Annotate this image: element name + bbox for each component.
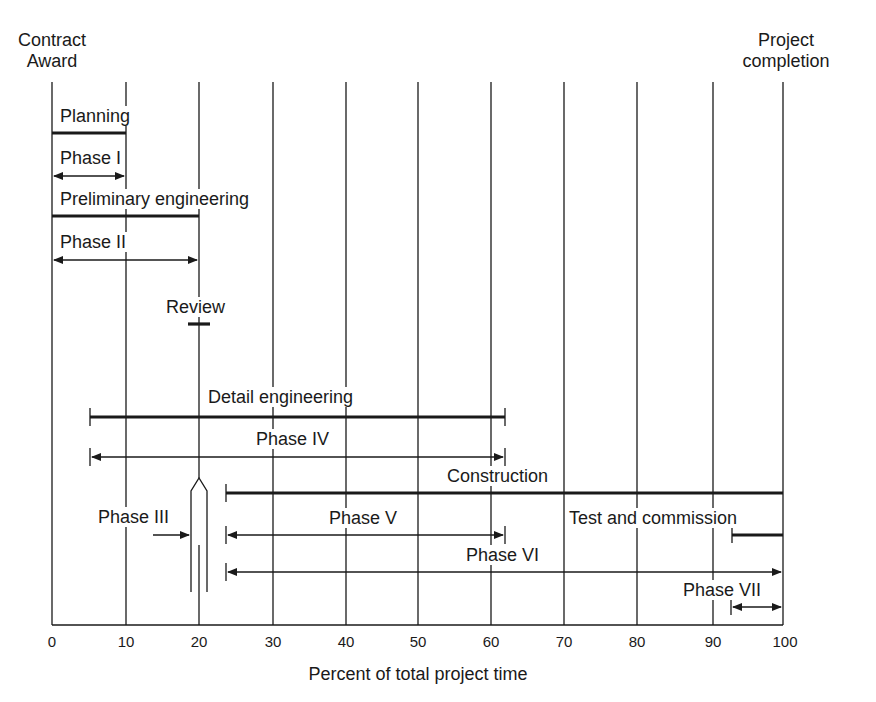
label-phase-7: Phase VII [681, 580, 763, 600]
bar-construction [226, 484, 783, 502]
label-preliminary-engineering: Preliminary engineering [58, 189, 251, 209]
x-tick-0: 0 [48, 634, 56, 650]
label-detail-engineering: Detail engineering [206, 387, 355, 407]
label-construction: Construction [445, 466, 550, 486]
bar-detail-engineering [90, 408, 505, 426]
contract-award-line2: Award [2, 51, 102, 72]
label-phase-2: Phase II [58, 232, 128, 252]
x-tick-10: 10 [118, 634, 135, 650]
label-phase-5: Phase V [327, 508, 399, 528]
arrow-phase-5 [226, 526, 505, 544]
milestone-contract-award: Contract Award [2, 30, 102, 72]
x-tick-40: 40 [338, 634, 355, 650]
label-phase-4: Phase IV [254, 429, 331, 449]
gridlines [52, 82, 783, 625]
label-phase-3: Phase III [96, 507, 171, 527]
x-tick-90: 90 [705, 634, 722, 650]
label-review: Review [164, 297, 227, 317]
arrow-phase-4 [90, 448, 505, 466]
x-axis-title: Percent of total project time [308, 664, 527, 684]
label-phase-6: Phase VI [464, 545, 541, 565]
project-completion-line1: Project [736, 30, 836, 51]
x-tick-70: 70 [556, 634, 573, 650]
phase-3-marker [191, 478, 207, 625]
x-tick-80: 80 [629, 634, 646, 650]
arrow-phase-6 [226, 563, 781, 581]
label-test-and-commission: Test and commission [567, 508, 739, 528]
label-planning: Planning [58, 106, 132, 126]
x-tick-30: 30 [265, 634, 282, 650]
arrow-phase-7 [731, 599, 781, 615]
project-completion-line2: completion [736, 51, 836, 72]
x-tick-60: 60 [483, 634, 500, 650]
milestone-project-completion: Project completion [736, 30, 836, 72]
gantt-chart: Contract Award Project completion Planni… [0, 0, 876, 702]
x-tick-50: 50 [410, 634, 427, 650]
contract-award-line1: Contract [2, 30, 102, 51]
label-phase-1: Phase I [58, 148, 123, 168]
x-tick-100: 100 [772, 634, 797, 650]
bar-test-and-commission [732, 527, 783, 543]
x-tick-20: 20 [191, 634, 208, 650]
